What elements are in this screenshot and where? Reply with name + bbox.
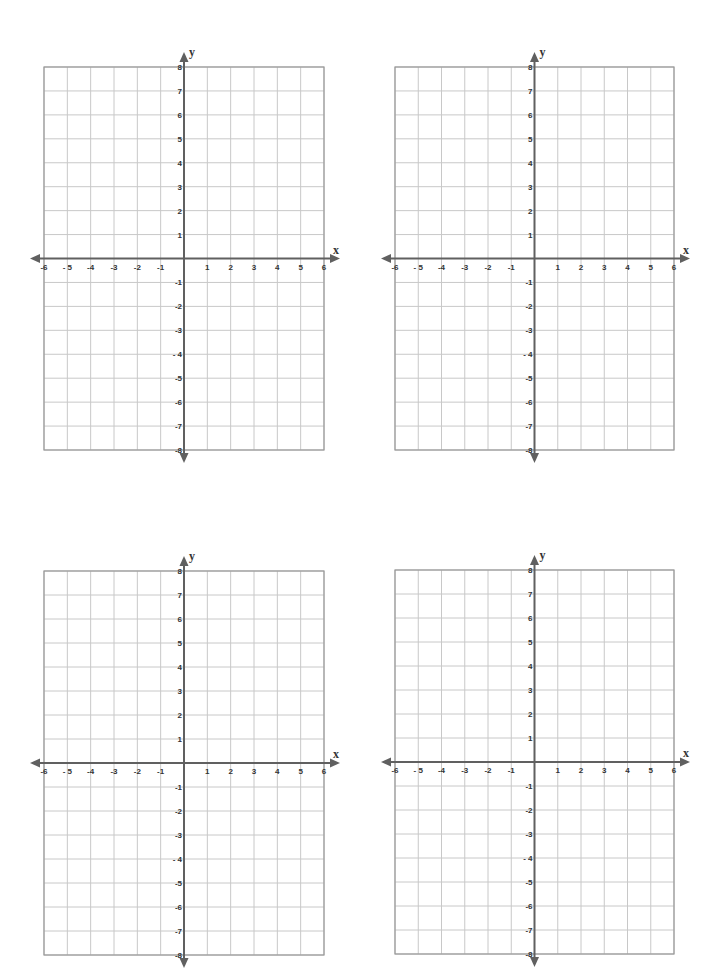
- y-tick-label: 8: [528, 63, 533, 72]
- y-tick-label: 1: [528, 231, 533, 240]
- y-tick-label: -8: [175, 446, 183, 455]
- x-axis-title: x: [333, 747, 339, 761]
- x-tick-label: 3: [602, 766, 607, 775]
- x-tick-label: 5: [649, 766, 654, 775]
- x-axis-title: x: [333, 243, 339, 257]
- arrow-up-icon: [530, 555, 539, 565]
- y-tick-label: -2: [525, 806, 533, 815]
- x-tick-label: 1: [205, 767, 210, 776]
- x-tick-label: 6: [672, 766, 677, 775]
- y-tick-label: - 4: [173, 350, 183, 359]
- coordinate-plane-top-left: xy-6- 5-4-3-2-112345687654321-1-2-3- 4-5…: [44, 67, 324, 450]
- x-tick-label: -1: [508, 263, 516, 272]
- y-tick-label: 2: [178, 207, 183, 216]
- y-tick-label: -7: [525, 926, 533, 935]
- y-tick-label: 8: [178, 63, 183, 72]
- x-tick-label: 6: [672, 263, 677, 272]
- x-tick-label: -1: [508, 766, 516, 775]
- arrow-left-icon: [30, 254, 40, 263]
- y-tick-label: - 4: [173, 855, 183, 864]
- y-tick-label: 8: [528, 566, 533, 575]
- y-axis-title: y: [189, 45, 195, 59]
- y-tick-label: - 4: [523, 854, 533, 863]
- y-tick-label: 4: [178, 663, 183, 672]
- arrow-up-icon: [180, 556, 189, 566]
- y-tick-label: 7: [178, 87, 183, 96]
- y-tick-label: -6: [175, 903, 183, 912]
- y-tick-label: 1: [178, 231, 183, 240]
- y-tick-label: 6: [528, 111, 533, 120]
- y-tick-label: 3: [178, 183, 183, 192]
- x-tick-label: -2: [484, 263, 492, 272]
- y-tick-label: 6: [528, 614, 533, 623]
- x-tick-label: - 5: [414, 766, 424, 775]
- x-tick-label: -6: [40, 263, 48, 272]
- coordinate-plane-top-right: xy-6- 5-4-3-2-112345687654321-1-2-3- 4-5…: [395, 67, 674, 450]
- y-tick-label: 1: [178, 735, 183, 744]
- y-tick-label: -2: [175, 807, 183, 816]
- y-tick-label: -7: [175, 422, 183, 431]
- x-tick-label: 2: [579, 766, 584, 775]
- y-tick-label: -3: [175, 831, 183, 840]
- y-tick-label: 5: [178, 135, 183, 144]
- y-tick-label: -2: [175, 302, 183, 311]
- y-tick-label: - 4: [523, 350, 533, 359]
- y-tick-label: 3: [528, 183, 533, 192]
- y-tick-label: 2: [528, 207, 533, 216]
- y-tick-label: 3: [528, 686, 533, 695]
- y-tick-label: -5: [175, 879, 183, 888]
- x-tick-label: 5: [298, 767, 303, 776]
- arrow-up-icon: [530, 52, 539, 62]
- y-tick-label: -1: [175, 278, 183, 287]
- x-tick-label: -4: [87, 263, 95, 272]
- arrow-left-icon: [381, 758, 391, 767]
- y-tick-label: 4: [178, 159, 183, 168]
- y-tick-label: 3: [178, 687, 183, 696]
- x-tick-label: 4: [625, 766, 630, 775]
- x-tick-label: -3: [110, 263, 118, 272]
- x-tick-label: -3: [461, 766, 469, 775]
- x-tick-label: 6: [322, 767, 327, 776]
- axes: [381, 52, 690, 463]
- y-tick-label: -5: [525, 878, 533, 887]
- x-tick-label: -6: [40, 767, 48, 776]
- x-tick-label: -1: [157, 767, 165, 776]
- x-tick-label: 3: [252, 767, 257, 776]
- y-tick-label: 6: [178, 111, 183, 120]
- y-tick-label: -2: [525, 302, 533, 311]
- y-tick-label: 6: [178, 615, 183, 624]
- y-tick-label: -7: [525, 422, 533, 431]
- x-tick-label: -2: [484, 766, 492, 775]
- x-tick-label: -6: [391, 263, 399, 272]
- y-tick-label: -8: [525, 950, 533, 959]
- arrow-left-icon: [30, 759, 40, 768]
- y-tick-label: 2: [178, 711, 183, 720]
- y-tick-label: -6: [175, 398, 183, 407]
- y-tick-label: -6: [525, 398, 533, 407]
- x-tick-label: 1: [205, 263, 210, 272]
- y-tick-label: 7: [528, 87, 533, 96]
- y-axis-title: y: [189, 549, 195, 563]
- x-tick-label: 6: [322, 263, 327, 272]
- x-tick-label: 1: [556, 766, 561, 775]
- y-tick-label: -3: [525, 326, 533, 335]
- y-tick-label: -8: [175, 951, 183, 960]
- arrow-up-icon: [180, 52, 189, 62]
- x-tick-label: 1: [556, 263, 561, 272]
- y-tick-label: 1: [528, 734, 533, 743]
- y-tick-label: 7: [178, 591, 183, 600]
- x-tick-label: - 5: [63, 767, 73, 776]
- y-tick-label: -5: [175, 374, 183, 383]
- y-tick-label: -1: [525, 278, 533, 287]
- y-tick-label: -1: [525, 782, 533, 791]
- y-tick-label: -7: [175, 927, 183, 936]
- y-tick-label: -6: [525, 902, 533, 911]
- coordinate-plane-bottom-left: xy-6- 5-4-3-2-112345687654321-1-2-3- 4-5…: [44, 571, 324, 955]
- x-tick-label: -2: [134, 767, 142, 776]
- axes: [30, 52, 340, 463]
- y-tick-label: 5: [178, 639, 183, 648]
- x-tick-label: 2: [228, 767, 233, 776]
- y-tick-label: -3: [175, 326, 183, 335]
- y-tick-label: -3: [525, 830, 533, 839]
- y-axis-title: y: [540, 45, 546, 59]
